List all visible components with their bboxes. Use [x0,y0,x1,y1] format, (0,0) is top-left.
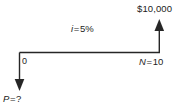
outflow-arrowhead-icon [15,79,25,91]
inflow-amount-label: $10,000 [137,3,172,14]
cash-flow-diagram: $10,000 i=5% 0 N=10 P=? [0,0,190,110]
interest-rate-label: i=5% [71,23,94,34]
periods-equals-sign: = [146,56,153,67]
present-value-result: ? [16,93,21,104]
cash-flow-graphic [0,0,190,110]
inflow-arrowhead-icon [155,19,165,31]
periods-label: N=10 [139,56,163,67]
present-value-label: P=? [3,93,21,104]
interest-rate-equals-sign: = [73,23,80,34]
interest-rate-value: 5% [80,23,94,34]
period-zero-label: 0 [22,56,27,67]
periods-value: 10 [153,56,164,67]
periods-symbol: N [139,56,146,67]
